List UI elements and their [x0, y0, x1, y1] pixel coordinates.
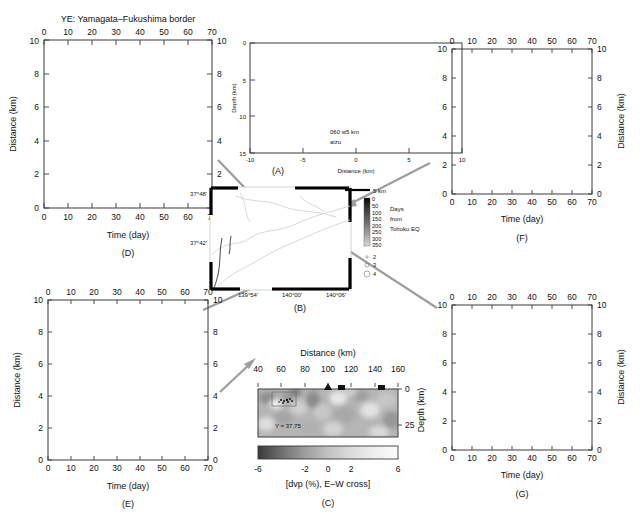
panel-g-xtickb-5: 50	[547, 453, 557, 463]
panel-c-xtick-6: 160	[391, 364, 405, 374]
panel-a-xlabel: Distance (km)	[337, 168, 374, 174]
panel-d-xtick-5: 50	[159, 27, 169, 37]
panel-e-xlabel: Time (day)	[107, 481, 150, 491]
panel-e-xtick-7: 70	[203, 287, 213, 297]
panel-b-colorbar-gradient	[364, 198, 370, 246]
figure-svg: YE: Yamagata–Fukushima border 0 10 20 30	[0, 0, 642, 524]
panel-g-xtick-4: 40	[527, 292, 537, 302]
panel-d-xtick-3: 30	[111, 27, 121, 37]
panel-d-ytickr-2: 4	[217, 136, 222, 146]
panel-c-cb-tick-4: 6	[396, 464, 401, 474]
panel-f-xtick-0: 0	[450, 36, 455, 46]
panel-e-xtick-2: 20	[89, 287, 99, 297]
panel-f-xtickb-0: 0	[450, 197, 455, 207]
panel-c-cb-tick-3: 2	[349, 464, 354, 474]
panel-f-ytick-0: 0	[442, 189, 447, 199]
panel-f-ytick-2: 4	[442, 131, 447, 141]
panel-g-xtick-0: 0	[450, 292, 455, 302]
panel-b-lon-2: 140°06'	[326, 292, 346, 298]
panel-c-annotation: Y = 37.75	[275, 423, 301, 429]
panel-e-xtick-5: 50	[157, 287, 167, 297]
panel-g-xtickb-2: 20	[487, 453, 497, 463]
panel-c-xtick-2: 80	[300, 364, 310, 374]
panel-e-xtickb-4: 40	[135, 463, 145, 473]
panel-f-xtick-3: 30	[507, 36, 517, 46]
panel-b-mag-1: 3	[373, 262, 376, 268]
panel-f-ytick-4: 8	[442, 73, 447, 83]
panel-d-xtickb-4: 40	[135, 212, 145, 222]
panel-f-ytickr-0: 0	[597, 189, 602, 199]
panel-g-ytick-4: 8	[442, 329, 447, 339]
panel-c-xtick-1: 60	[276, 364, 286, 374]
panel-e-ytickr-1: 2	[213, 423, 218, 433]
panel-f-ytick-5: 10	[438, 44, 448, 54]
panel-e-xtick-6: 60	[180, 287, 190, 297]
panel-g-xtick-5: 50	[547, 292, 557, 302]
panel-f-xlabel: Time (day)	[501, 214, 544, 224]
figure-root: YE: Yamagata–Fukushima border 0 10 20 30	[0, 0, 642, 524]
panel-b-scalebar-label: 5 km	[373, 188, 386, 194]
panel-g-xtick-6: 60	[567, 292, 577, 302]
panel-d-ylabel: Distance (km)	[8, 96, 18, 152]
panel-c-colorbar-label: [dvp (%), E–W cross]	[286, 479, 371, 489]
panel-g-ytick-5: 10	[438, 300, 448, 310]
panel-f-ytick-3: 6	[442, 102, 447, 112]
panel-f-ytickr-1: 2	[597, 160, 602, 170]
panel-f-xtick-7: 70	[587, 36, 597, 46]
panel-b-cb-tick-0: 0	[372, 196, 375, 202]
panel-d-ytickr-1: 2	[217, 169, 222, 179]
panel-e-ytick-0: 0	[38, 455, 43, 465]
panel-a-xtick-0: -10	[246, 157, 255, 163]
panel-f-xtickb-2: 20	[487, 197, 497, 207]
panel-e-ytickr-4: 8	[213, 327, 218, 337]
panel-c-xtick-4: 120	[344, 364, 358, 374]
panel-d-xtickb-2: 20	[87, 212, 97, 222]
panel-d-ytick-5: 10	[30, 36, 40, 46]
panel-c-cb-tick-0: -6	[254, 464, 262, 474]
panel-d-ytickr-3: 6	[217, 102, 222, 112]
panel-d-ytick-1: 2	[34, 169, 39, 179]
panel-g-ytick-0: 0	[442, 445, 447, 455]
panel-g-ytickr-5: 10	[597, 300, 607, 310]
panel-e-ytick-2: 4	[38, 391, 43, 401]
panel-c-station-marker-2	[378, 385, 385, 390]
panel-g-ytick-3: 6	[442, 358, 447, 368]
panel-d-ytick-3: 6	[34, 102, 39, 112]
panel-f-ytickr-5: 10	[597, 44, 607, 54]
panel-e-xtickb-3: 30	[112, 463, 122, 473]
panel-e-ytickr-0: 0	[213, 455, 218, 465]
panel-d-ytick-2: 4	[34, 136, 39, 146]
panel-b-cb-tick-3: 150	[372, 216, 381, 222]
panel-c-ylabel: Depth (km)	[416, 388, 426, 433]
panel-g-ylabel: Distance (km)	[616, 349, 626, 405]
panel-f-xtick-1: 10	[467, 36, 477, 46]
panel-d-ytickr-4: 8	[217, 69, 222, 79]
panel-b-cb-title-3: Tohoku EQ	[390, 226, 420, 232]
panel-c-station-marker-1	[338, 385, 345, 390]
panel-e-ytick-4: 8	[38, 327, 43, 337]
panel-c-ytick-1: 25	[405, 420, 415, 430]
panel-g-xtickb-0: 0	[450, 453, 455, 463]
panel-d-label: (D)	[122, 248, 135, 258]
panel-c-xtick-3: 100	[321, 364, 335, 374]
panel-c-ytick-0: 0	[405, 384, 410, 394]
panel-f-xtickb-6: 60	[567, 197, 577, 207]
panel-c-colorbar	[258, 446, 398, 459]
panel-f-label: (F)	[516, 233, 528, 243]
panel-b-cb-title-2: from	[390, 216, 402, 222]
panel-f-xtick-6: 60	[567, 36, 577, 46]
panel-b-lat-1: 37°42'	[190, 240, 207, 246]
panel-f-ylabel: Distance (km)	[616, 93, 626, 149]
figure-title: YE: Yamagata–Fukushima border	[61, 14, 196, 24]
panel-a-annotation-2: aizu	[330, 139, 341, 145]
panel-f-ytickr-3: 6	[597, 102, 602, 112]
panel-d-ytickr-5: 10	[217, 36, 227, 46]
panel-e-xtickb-1: 10	[66, 463, 76, 473]
panel-d-xtick-2: 20	[87, 27, 97, 37]
panel-e-ytick-3: 6	[38, 359, 43, 369]
panel-c-xlabel: Distance (km)	[300, 348, 356, 358]
panel-c-cb-tick-1: -2	[301, 464, 309, 474]
panel-g-ytickr-1: 2	[597, 416, 602, 426]
panel-b-mag-2: 4	[373, 271, 376, 277]
panel-b-cb-tick-1: 50	[372, 203, 378, 209]
